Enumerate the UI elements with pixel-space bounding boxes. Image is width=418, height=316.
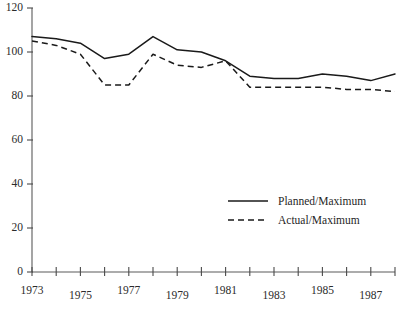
- legend-item-planned: Planned/Maximum: [228, 191, 408, 210]
- series-group: [32, 37, 395, 92]
- y-tick-label: 60: [0, 134, 23, 146]
- x-tick-label: 1981: [203, 285, 249, 297]
- series-line-planned: [32, 37, 395, 81]
- y-tick-label: 20: [0, 222, 23, 234]
- x-tick-label: 1985: [299, 285, 345, 297]
- y-tick-label: 120: [0, 2, 23, 14]
- line-chart: 020406080100120 197319751977197919811983…: [0, 0, 418, 316]
- plot-area: [0, 0, 418, 316]
- ticks-group: [27, 8, 395, 276]
- x-tick-label: 1977: [106, 285, 152, 297]
- x-tick-label: 1973: [9, 285, 55, 297]
- x-tick-label: 1975: [57, 290, 103, 302]
- chart-legend: Planned/Maximum Actual/Maximum: [228, 191, 408, 229]
- series-line-actual: [32, 41, 395, 92]
- x-tick-label: 1987: [348, 290, 394, 302]
- y-tick-label: 80: [0, 90, 23, 102]
- legend-item-actual: Actual/Maximum: [228, 210, 408, 229]
- y-tick-label: 100: [0, 46, 23, 58]
- x-tick-label: 1983: [251, 290, 297, 302]
- legend-label-actual: Actual/Maximum: [278, 214, 360, 226]
- y-tick-label: 0: [0, 266, 23, 278]
- legend-label-planned: Planned/Maximum: [278, 195, 366, 207]
- y-tick-label: 40: [0, 178, 23, 190]
- x-tick-label: 1979: [154, 290, 200, 302]
- legend-swatch-solid-icon: [228, 196, 268, 206]
- legend-swatch-dashed-icon: [228, 215, 268, 225]
